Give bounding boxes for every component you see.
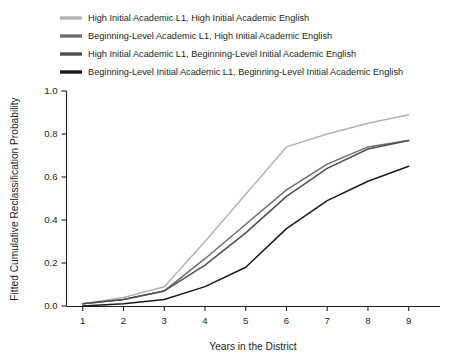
legend-item-1: Beginning-Level Academic L1, High Initia… (60, 31, 332, 41)
x-axis: 123456789 Years in the District (67, 306, 441, 352)
legend-label-1: Beginning-Level Academic L1, High Initia… (88, 31, 332, 41)
legend-item-2: High Initial Academic L1, Beginning-Leve… (60, 49, 356, 59)
series-line-3 (83, 166, 409, 306)
x-tick-label: 7 (325, 315, 330, 326)
x-axis-ticks: 123456789 (80, 306, 411, 326)
y-tick-label: 0.8 (44, 128, 57, 139)
chart-legend: High Initial Academic L1, High Initial A… (60, 13, 403, 77)
x-tick-label: 9 (406, 315, 411, 326)
x-axis-title: Years in the District (209, 341, 297, 352)
x-tick-label: 2 (121, 315, 126, 326)
legend-label-0: High Initial Academic L1, High Initial A… (88, 13, 309, 23)
x-tick-label: 5 (243, 315, 248, 326)
y-tick-label: 0.6 (44, 171, 57, 182)
x-tick-label: 8 (365, 315, 370, 326)
chart-series-layer (83, 115, 409, 306)
y-tick-label: 1.0 (44, 85, 57, 96)
series-line-0 (83, 115, 409, 304)
y-axis-ticks: 0.00.20.40.60.81.0 (44, 85, 66, 311)
legend-label-3: Beginning-Level Initial Academic L1, Beg… (88, 67, 403, 77)
x-tick-label: 4 (202, 315, 208, 326)
series-line-1 (83, 140, 409, 303)
y-tick-label: 0.4 (44, 214, 58, 225)
x-tick-label: 6 (284, 315, 289, 326)
y-axis-title: Fitted Cumulative Reclassification Proba… (9, 96, 20, 300)
series-line-2 (83, 140, 409, 303)
y-tick-label: 0.2 (44, 257, 57, 268)
x-tick-label: 3 (162, 315, 167, 326)
y-axis: 0.00.20.40.60.81.0 Fitted Cumulative Rec… (9, 85, 67, 311)
legend-item-0: High Initial Academic L1, High Initial A… (60, 13, 309, 23)
x-tick-label: 1 (80, 315, 85, 326)
legend-item-3: Beginning-Level Initial Academic L1, Beg… (60, 67, 403, 77)
y-tick-label: 0.0 (44, 300, 57, 311)
chart-figure: High Initial Academic L1, High Initial A… (0, 0, 452, 363)
legend-label-2: High Initial Academic L1, Beginning-Leve… (88, 49, 356, 59)
